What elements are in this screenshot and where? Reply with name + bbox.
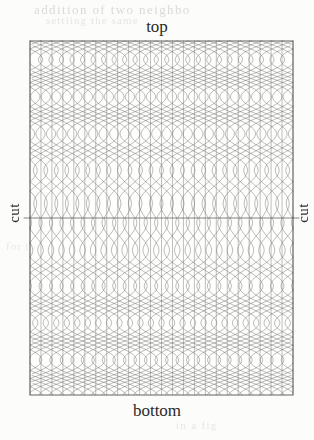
woven-lattice-figure xyxy=(0,0,314,440)
label-bottom: bottom xyxy=(0,402,314,419)
label-cut-left: cut xyxy=(7,203,22,223)
lattice-group xyxy=(24,41,299,395)
scanned-page: addition of two neighbo settling the sam… xyxy=(0,0,314,440)
label-cut-right: cut xyxy=(296,203,311,223)
